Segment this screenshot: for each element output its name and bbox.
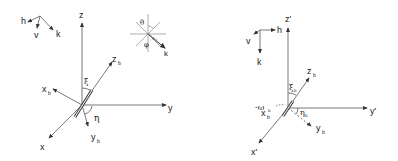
polar-phi-label: φ [144,41,149,49]
left-xi-arc [82,88,90,90]
polar-theta-label: θ [140,19,144,27]
left-triad-v-label: v [34,30,39,40]
left-x-axis [49,105,82,138]
right-triad-v-label: v [246,36,251,46]
left-xi-label: ξ [84,77,89,86]
right-zb-label: z [307,66,312,76]
right-triad-h-label: h [277,25,282,35]
right-y-label: y' [370,106,377,116]
left-triad-h-label: h [21,16,26,26]
left-triad-k-label: k [56,29,61,39]
left-y-label: y [168,103,173,113]
right-xi-arc [288,93,296,95]
left-eta-arc [85,106,92,114]
right-zb-sub: b [313,72,316,78]
right-eta-arc [296,108,298,114]
left-labels: h v k z y x z b x b y b ξ η θ φ k [21,10,173,152]
right-omega-label: -ω [255,103,265,112]
right-eta-sub: b [305,113,308,118]
right-orientation-triad [254,30,275,53]
right-yb-label: y [316,123,321,133]
coordinate-frames-diagram: h v k z y x z b x b y b ξ η θ φ k [0,0,398,161]
left-xb-label: x [42,84,47,94]
left-zb-label: z [112,54,117,64]
left-z-label: z [79,10,84,20]
right-z-label: z' [285,14,292,24]
left-orientation-triad [28,16,53,30]
polar-k-label: k [164,49,169,58]
right-omega-sub: b [268,108,271,113]
left-yb-label: y [91,132,96,142]
left-x-label: x [40,142,45,152]
right-triad-k-label: k [257,57,262,67]
right-xi-sub: b [294,88,297,93]
right-xb-sub: b [267,114,270,120]
right-yb-sub: b [322,129,325,135]
left-eta-label: η [94,113,99,123]
left-xb-sub: b [48,90,51,96]
left-xb-axis [53,89,82,105]
right-omega-arc [276,105,284,106]
right-frame [254,28,367,143]
left-yb-sub: b [97,138,100,144]
diagram-svg: h v k z y x z b x b y b ξ η θ φ k [0,0,398,161]
left-zb-sub: b [118,60,121,66]
right-x-label: x' [251,147,258,157]
left-yb-axis [82,105,88,126]
